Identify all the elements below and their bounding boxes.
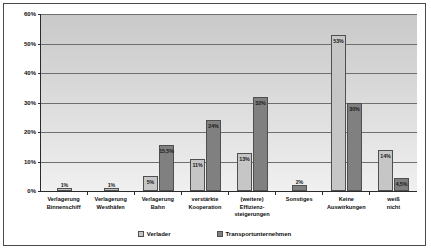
x-axis-category-label: KeineAuswirkungen [323,196,370,219]
x-axis-tick-mark [134,191,135,195]
bar-group: 14%4,5% [370,14,417,191]
bar-value-label: 24% [208,123,218,129]
legend-swatch-icon [217,231,223,237]
x-axis-category-label: VerlagerungWesthäfen [87,196,134,219]
bar-group: 1% [88,14,135,191]
x-axis-category-label: verstärkteKooperation [181,196,228,219]
y-axis-tick-label: 60% [24,11,36,17]
y-axis-tick-label: 0% [27,188,36,194]
bar-value-label: 15,5% [159,148,174,154]
bar-value-label: 11% [192,162,202,168]
bar: 13% [237,153,252,191]
bar-group: 2% [276,14,323,191]
bar: 30% [347,103,362,192]
chart-legend: VerladerTransportunternehmen [4,231,425,237]
x-axis-tick-mark [369,191,370,195]
x-axis-category-label: Sonstiges [276,196,323,219]
bar-groups: 1%1%5%15,5%11%24%13%32%2%53%30%14%4,5% [41,14,417,191]
bar: 1% [57,188,72,191]
x-axis-category-label: VerlagerungBahn [134,196,181,219]
x-axis-category-label: VerlagerungBinnenschiff [40,196,87,219]
y-axis-tick-label: 40% [24,70,36,76]
x-axis-tick-mark [275,191,276,195]
legend-item: Transportunternehmen [217,231,292,237]
bar-value-label: 32% [255,100,265,106]
x-axis-tick-mark [322,191,323,195]
legend-label: Transportunternehmen [226,231,292,237]
y-axis-tick-label: 30% [24,100,36,106]
bar: 24% [206,120,221,191]
chart-frame: 0%10%20%30%40%50%60% 1%1%5%15,5%11%24%13… [3,3,426,246]
bar-group: 13%32% [229,14,276,191]
bar: 2% [292,185,307,191]
x-axis-tick-mark [181,191,182,195]
y-axis-tick-label: 20% [24,129,36,135]
bar-value-label: 1% [108,182,115,188]
x-axis-category-label: (weitere)Effizienz-steigerungen [229,196,276,219]
bar-value-label: 14% [380,153,390,159]
bar: 53% [331,35,346,191]
legend-swatch-icon [138,231,144,237]
bar-group: 53%30% [323,14,370,191]
y-axis-tick-label: 50% [24,41,36,47]
bar: 14% [378,150,393,191]
y-axis-tick-mark [38,191,41,192]
plot-area: 0%10%20%30%40%50%60% 1%1%5%15,5%11%24%13… [40,14,417,192]
bar-value-label: 30% [349,106,359,112]
bar-value-label: 4,5% [396,181,408,187]
bar: 1% [104,188,119,191]
bar-value-label: 53% [333,38,343,44]
legend-item: Verlader [138,231,171,237]
bar-group: 1% [41,14,88,191]
bar: 32% [253,97,268,191]
y-axis-tick-label: 10% [24,159,36,165]
x-axis-tick-mark [228,191,229,195]
x-axis-category-label: weißnicht [370,196,417,219]
bar: 15,5% [159,145,174,191]
bar-value-label: 1% [61,182,68,188]
bar-group: 11%24% [182,14,229,191]
bar-value-label: 2% [296,179,303,185]
x-axis-tick-mark [87,191,88,195]
x-axis-labels: VerlagerungBinnenschiffVerlagerungWesthä… [40,196,417,219]
bar-value-label: 13% [239,156,249,162]
bar: 4,5% [394,178,409,191]
bar-group: 5%15,5% [135,14,182,191]
bar: 11% [190,159,205,191]
legend-label: Verlader [147,231,171,237]
bar-value-label: 5% [147,179,154,185]
bar: 5% [143,176,158,191]
